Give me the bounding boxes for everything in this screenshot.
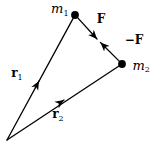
- mass-m1-dot: [71, 11, 79, 19]
- two-mass-force-diagram: m1 F −F m2 r1 r2: [0, 0, 162, 146]
- label-mass-m1: m1: [51, 1, 68, 18]
- label-force-minus-f: −F: [125, 33, 144, 47]
- force-f-arrow: [78, 18, 97, 39]
- label-vector-r1-subscript: 1: [18, 73, 23, 82]
- label-mass-m2: m2: [133, 58, 150, 75]
- label-mass-m1-subscript: 1: [63, 9, 68, 18]
- label-vector-r2: r2: [52, 107, 63, 123]
- diagram-canvas: m1 F −F m2 r1 r2: [0, 0, 162, 146]
- r1-arrowhead: [35, 81, 39, 88]
- force-minus-f-arrow: [101, 43, 120, 62]
- r2-vector-shaft: [7, 66, 119, 140]
- label-force-f: F: [97, 12, 106, 26]
- label-mass-m2-subscript: 2: [145, 65, 150, 74]
- label-vector-r1: r1: [11, 66, 22, 82]
- mass-m2-dot: [118, 60, 126, 68]
- label-vector-r2-subscript: 2: [59, 114, 64, 123]
